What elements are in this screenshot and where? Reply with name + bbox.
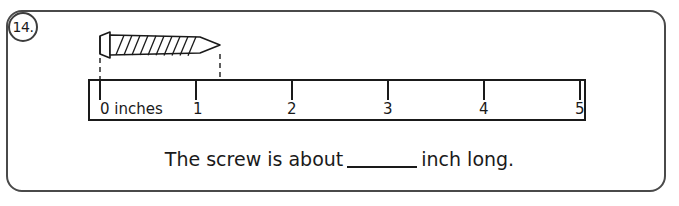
ruler-origin-label: 0 inches	[100, 100, 163, 118]
question-number-label: 14.	[13, 20, 34, 34]
ruler-tick-label-3: 3	[383, 100, 393, 118]
answer-blank[interactable]	[347, 149, 417, 168]
ruler-tick-label-5: 5	[575, 100, 585, 118]
screw-illustration	[100, 32, 220, 58]
worksheet-page: 14.	[0, 0, 679, 206]
sentence-suffix: inch long.	[421, 148, 514, 170]
ruler-tick-label-1: 1	[193, 100, 203, 118]
sentence-prefix: The screw is about	[165, 148, 343, 170]
ruler-tick-label-4: 4	[479, 100, 489, 118]
measurement-guides	[100, 54, 220, 80]
question-number-badge: 14.	[8, 12, 38, 42]
question-sentence: The screw is aboutinch long.	[0, 148, 679, 170]
ruler-tick-label-2: 2	[287, 100, 297, 118]
ruler-diagram: 0 inches 1 2 3 4 5	[88, 22, 598, 132]
